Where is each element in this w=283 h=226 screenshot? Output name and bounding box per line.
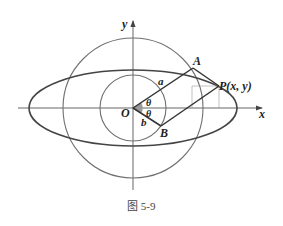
point-a-label: A bbox=[192, 54, 201, 68]
segment-oa bbox=[133, 68, 193, 108]
segment-bp bbox=[161, 86, 219, 126]
segment-ap bbox=[193, 68, 219, 86]
segment-a-label: a bbox=[158, 75, 164, 87]
point-p-label: P(x, y) bbox=[219, 79, 252, 93]
angle-upper-label: θ bbox=[146, 97, 152, 108]
origin-label: O bbox=[121, 106, 130, 120]
point-b-label: B bbox=[159, 126, 168, 140]
x-axis-label: x bbox=[258, 107, 265, 121]
figure-caption: 图 5-9 bbox=[127, 200, 156, 212]
y-axis-label: y bbox=[120, 17, 128, 31]
ellipse-parametric-diagram: y x O A B P(x, y) a b θ θ 图 5-9 bbox=[0, 0, 283, 226]
angle-lower-label: θ bbox=[146, 108, 152, 119]
